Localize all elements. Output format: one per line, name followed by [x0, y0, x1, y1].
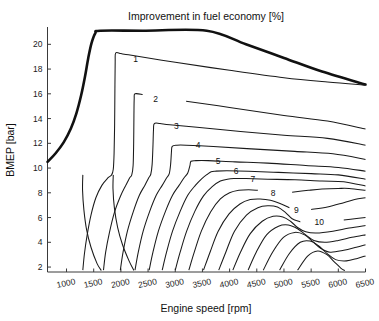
contour-label-7: 7 [251, 174, 256, 184]
chart-background [0, 0, 379, 321]
contour-label-4: 4 [196, 140, 201, 150]
contour-label-10: 10 [315, 217, 325, 227]
y-axis-title: BMEP [bar] [4, 123, 16, 177]
contour-label-5: 5 [216, 156, 221, 166]
contour-label-9: 9 [294, 205, 299, 215]
contour-label-1: 1 [133, 54, 138, 64]
fuel-economy-contour-chart: Improvement in fuel economy [%] 10001500… [0, 0, 379, 321]
contour-label-2: 2 [153, 94, 158, 104]
y-tick-label: 2 [38, 262, 43, 272]
y-tick-label: 14 [33, 114, 43, 124]
y-tick-label: 4 [38, 237, 43, 247]
chart-title: Improvement in fuel economy [%] [128, 10, 284, 22]
y-tick-label: 8 [38, 188, 43, 198]
contour-label-8: 8 [271, 188, 276, 198]
y-tick-label: 20 [33, 39, 43, 49]
x-axis-title: Engine speed [rpm] [160, 302, 251, 314]
y-tick-label: 18 [33, 64, 43, 74]
contour-label-3: 3 [174, 121, 179, 131]
y-tick-label: 16 [33, 89, 43, 99]
chart-svg: Improvement in fuel economy [%] 10001500… [0, 0, 379, 321]
y-tick-label: 12 [33, 138, 43, 148]
contour-label-6: 6 [234, 166, 239, 176]
y-tick-label: 6 [38, 213, 43, 223]
y-tick-label: 10 [33, 163, 43, 173]
